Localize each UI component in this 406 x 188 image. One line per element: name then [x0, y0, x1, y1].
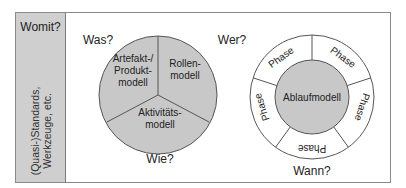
segment-artefakt-line1: Artefakt-/	[113, 53, 154, 64]
segment-artefakt-line3: modell	[118, 77, 147, 88]
segment-artefakt-line2: Produkt-	[114, 65, 152, 76]
segment-rollen-line2: modell	[170, 70, 199, 81]
diagram-canvas: Artefakt-/ Produkt- modell Rollen- model…	[0, 0, 406, 188]
segment-aktivitaet-line2: modell	[145, 119, 174, 130]
ablauf-center-label: Ablaufmodell	[283, 92, 341, 103]
segment-rollen-line1: Rollen-	[169, 58, 201, 69]
question-wann: Wann?	[293, 164, 331, 178]
right-ring-diagram: Phase Phase Phase Phase Phase Ablaufmode…	[250, 35, 374, 178]
question-was: Was?	[83, 33, 114, 47]
question-wie: Wie?	[146, 152, 174, 166]
left-pie-diagram: Artefakt-/ Produkt- modell Rollen- model…	[83, 33, 247, 166]
segment-aktivitaet-line1: Aktivitäts-	[138, 107, 181, 118]
phase-label-4: Phase	[297, 143, 326, 154]
question-wer: Wer?	[218, 33, 247, 47]
